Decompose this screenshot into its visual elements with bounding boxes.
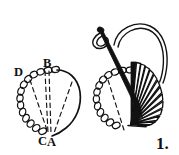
label-d: D [14, 65, 23, 79]
figure-caption: 1. [156, 134, 169, 153]
figure-root: D B C A [0, 0, 179, 155]
label-b: B [43, 56, 51, 70]
label-a: A [47, 135, 56, 149]
embroidery-diagram-svg: D B C A [0, 0, 179, 155]
label-c: C [38, 134, 47, 148]
